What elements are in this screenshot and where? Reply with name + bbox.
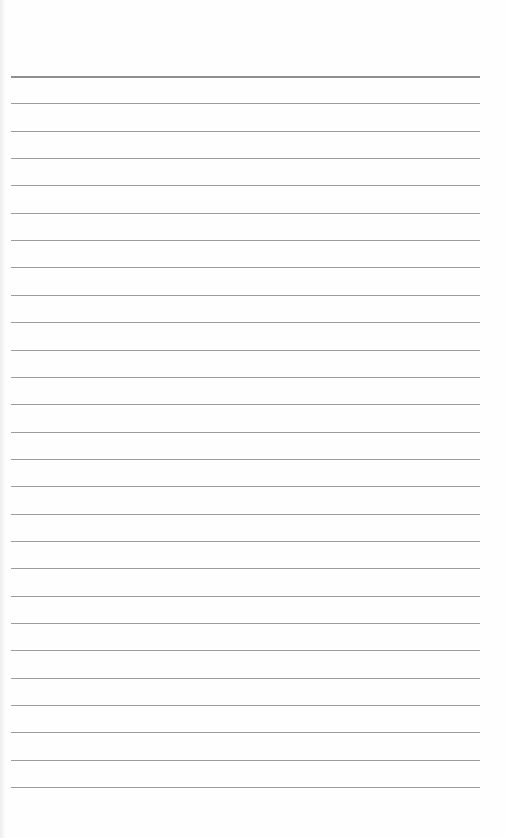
- lined-paper-page: [0, 0, 505, 838]
- ruled-line: [11, 787, 480, 788]
- ruled-line: [11, 185, 480, 186]
- ruled-line: [11, 322, 480, 323]
- page-edge-shadow: [0, 0, 6, 838]
- ruled-line: [11, 131, 480, 132]
- ruled-line: [11, 432, 480, 433]
- ruled-line: [11, 158, 480, 159]
- ruled-line: [11, 377, 480, 378]
- ruled-line: [11, 596, 480, 597]
- ruled-line: [11, 678, 480, 679]
- ruled-line: [11, 568, 480, 569]
- ruled-line: [11, 459, 480, 460]
- ruled-line: [11, 76, 480, 78]
- ruled-line: [11, 213, 480, 214]
- ruled-line: [11, 705, 480, 706]
- ruled-line: [11, 404, 480, 405]
- ruled-line: [11, 350, 480, 351]
- ruled-line: [11, 541, 480, 542]
- ruled-line: [11, 732, 480, 733]
- ruled-line: [11, 650, 480, 651]
- ruled-line: [11, 623, 480, 624]
- ruled-line: [11, 760, 480, 761]
- ruled-line: [11, 240, 480, 241]
- ruled-line: [11, 486, 480, 487]
- ruled-line: [11, 103, 480, 104]
- ruled-line: [11, 514, 480, 515]
- ruled-line: [11, 267, 480, 268]
- ruled-line: [11, 295, 480, 296]
